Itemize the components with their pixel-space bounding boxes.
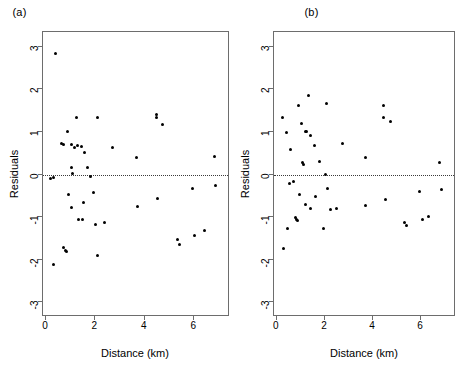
y-axis-tick-label: 0 [260, 173, 271, 195]
data-point [70, 166, 73, 169]
x-axis-tick-label: 4 [134, 320, 154, 331]
data-point [364, 156, 367, 159]
data-point [82, 201, 85, 204]
data-point [176, 238, 179, 241]
data-point [302, 163, 305, 166]
data-point [382, 104, 385, 107]
data-point [156, 197, 159, 200]
data-point [418, 190, 421, 193]
data-point [86, 166, 89, 169]
y-axis-tick-label: 3 [29, 45, 40, 67]
data-point [297, 104, 300, 107]
data-point [65, 250, 68, 253]
panel-b-x-axis-title: Distance (km) [264, 347, 464, 359]
data-point [427, 215, 430, 218]
data-point [96, 254, 99, 257]
data-point [76, 144, 79, 147]
data-point [52, 176, 55, 179]
x-axis-tick-label: 4 [362, 320, 382, 331]
y-axis-tick-label: 1 [260, 130, 271, 152]
data-point [96, 116, 99, 119]
data-point [81, 218, 84, 221]
panel-a-plot-area [42, 31, 229, 316]
data-point [77, 218, 80, 221]
data-point [52, 263, 55, 266]
panel-b-title: (b) [193, 6, 430, 18]
y-axis-tick-label: 2 [29, 88, 40, 110]
y-axis-tick-label: -1 [29, 216, 40, 238]
data-point [309, 207, 312, 210]
zero-reference-line [274, 175, 454, 176]
data-point [329, 208, 332, 211]
data-point [111, 146, 114, 149]
y-axis-tick-label: -2 [260, 258, 271, 280]
data-point [203, 229, 206, 232]
x-axis-tick-label: 6 [410, 320, 430, 331]
data-point [103, 221, 106, 224]
data-point [296, 219, 299, 222]
x-axis-tick-label: 6 [183, 320, 203, 331]
data-point [289, 148, 292, 151]
data-point [440, 188, 443, 191]
data-point [304, 203, 307, 206]
data-point [288, 182, 291, 185]
data-point [286, 227, 289, 230]
data-point [83, 151, 86, 154]
data-point [193, 234, 196, 237]
data-point [178, 243, 181, 246]
residual-plots-figure: (a) 3210-1-2-30246 Distance (km) Residua… [0, 0, 474, 375]
data-point [136, 205, 139, 208]
data-point [62, 143, 65, 146]
x-axis-tick-label: 2 [84, 320, 104, 331]
data-point [292, 180, 295, 183]
panel-b-plot-area [273, 31, 455, 316]
panel-b-y-axis-title: Residuals [239, 144, 251, 204]
data-point [318, 160, 321, 163]
data-point [281, 116, 284, 119]
data-point [335, 207, 338, 210]
data-point [75, 116, 78, 119]
data-point [70, 206, 73, 209]
data-point [322, 227, 325, 230]
x-axis-tick-label: 0 [266, 320, 286, 331]
x-axis-tick-label: 0 [35, 320, 55, 331]
data-point [213, 155, 216, 158]
data-point [313, 144, 316, 147]
data-point [314, 195, 317, 198]
data-point [364, 204, 367, 207]
data-point [54, 52, 57, 55]
data-point [94, 223, 97, 226]
y-axis-tick-label: 0 [29, 173, 40, 195]
data-point [309, 134, 312, 137]
panel-b: (b) 3210-1-2-30246 Distance (km) Residua… [237, 0, 474, 375]
y-axis-tick-label: -1 [260, 216, 271, 238]
data-point [67, 193, 70, 196]
data-point [298, 193, 301, 196]
data-point [155, 116, 158, 119]
y-axis-tick-label: 2 [260, 88, 271, 110]
data-point [285, 131, 288, 134]
x-axis-tick-label: 2 [314, 320, 334, 331]
data-point [307, 94, 310, 97]
data-point [135, 156, 138, 159]
panel-a-title: (a) [0, 6, 138, 18]
data-point [305, 130, 308, 133]
data-point [80, 145, 83, 148]
panel-a-y-axis-title: Residuals [8, 144, 20, 204]
data-point [282, 247, 285, 250]
data-point [405, 224, 408, 227]
data-point [161, 123, 164, 126]
data-point [389, 120, 392, 123]
data-point [300, 122, 303, 125]
data-point [89, 175, 92, 178]
panel-a-x-axis-title: Distance (km) [35, 347, 235, 359]
data-point [325, 102, 328, 105]
data-point [382, 116, 385, 119]
data-point [191, 187, 194, 190]
data-point [92, 191, 95, 194]
data-point [326, 187, 329, 190]
data-point [438, 161, 441, 164]
data-point [324, 173, 327, 176]
y-axis-tick-label: 1 [29, 130, 40, 152]
panel-a: (a) 3210-1-2-30246 Distance (km) Residua… [0, 0, 237, 375]
